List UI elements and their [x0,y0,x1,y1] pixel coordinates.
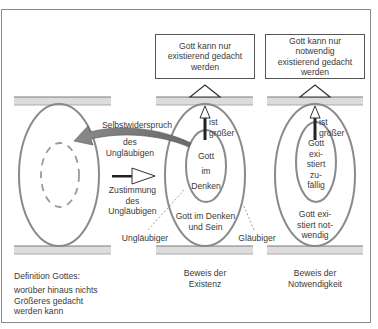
label-god-exists-necessarily: Gott exi- stiert not- wendig [285,209,345,241]
box-necessity: Gott kann nur notwendig existierend geda… [265,34,365,79]
definition-title: Definition Gottes: [14,271,114,282]
triangle-icon-middle [190,85,220,97]
label-god-in-thought-and-being: Gott im Denken und Sein [168,211,243,232]
ellipse-definition [19,104,99,246]
caption-proof-necessity: Beweis der Notwendigkeit [275,268,355,289]
ellipse-dashed-concept [41,143,79,207]
label-consent: Zustimmung des Ungläubigen [105,185,160,217]
label-greater-right: ist größer [319,117,359,138]
box-necessity-text: Gott kann nur notwendig existierend geda… [275,36,355,78]
bottom-shelf-left [14,246,111,254]
arrow-right-icon-consent [112,168,155,184]
label-believer: Gläubiger [232,233,282,244]
label-unbeliever: Ungläubiger [115,233,175,244]
leader-line-believer [243,204,254,230]
box-existence-text: Gott kann nur existierend gedacht werden [165,41,245,73]
bottom-shelf-middle [156,246,253,254]
label-self-contradiction-sub: des Ungläubigen [100,137,160,158]
label-greater-middle: ist größer [209,117,249,138]
caption-proof-existence: Beweis der Existenz [170,268,240,289]
label-self-contradiction: Selbstwiderspruch [92,120,182,131]
label-god-exists-contingently: Gott exi- stiert zu- fällig [296,138,336,191]
box-existence: Gott kann nur existierend gedacht werden [155,34,255,79]
triangle-icon-right [300,85,330,97]
definition-text: worüber hinaus nichts Größeres gedacht w… [14,285,104,317]
bottom-shelf-right [267,246,363,254]
label-god-in-thought: Gott im Denken [186,149,226,194]
